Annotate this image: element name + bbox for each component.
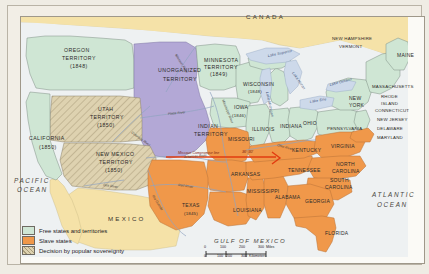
label-alabama: ALABAMA xyxy=(275,194,301,200)
label-florida: FLORIDA xyxy=(325,230,349,236)
country-label-mexico: MEXICO xyxy=(108,215,146,222)
label-missouri: MISSOURI xyxy=(228,136,255,142)
label-texas-year: (1845) xyxy=(184,211,198,216)
label-rhode-island: RHODE xyxy=(381,94,398,99)
scale-ruler xyxy=(204,250,300,254)
label-delaware: DELAWARE xyxy=(377,126,403,131)
legend-label-popular-sovereignty: Decision by popular sovereignty xyxy=(39,247,124,255)
label-indiana: INDIANA xyxy=(280,123,302,129)
label-new-jersey: NEW JERSEY xyxy=(377,117,408,122)
gulf-of-mexico-label: GULF OF MEXICO xyxy=(214,238,286,244)
label-new-york-line2: YORK xyxy=(349,102,365,108)
missouri-compromise-line-label: Missouri Compromise line xyxy=(178,151,219,155)
legend-label-free-states: Free states and territories xyxy=(39,227,107,235)
missouri-compromise-latitude-label: 36° 30' xyxy=(242,150,253,154)
label-connecticut: CONNECTICUT xyxy=(375,108,409,113)
label-illinois: ILLINOIS xyxy=(252,126,275,132)
label-south-carolina-line2: CAROLINA xyxy=(325,184,353,190)
label-indian-territory-line2: TERRITORY xyxy=(194,131,228,137)
label-new-york: NEW xyxy=(349,95,361,101)
label-vermont: VERMONT xyxy=(339,44,362,49)
label-massachusetts: MASSACHUSETTS xyxy=(372,84,414,89)
legend-item-popular-sovereignty: Decision by popular sovereignty xyxy=(22,246,168,255)
label-california: CALIFORNIA xyxy=(29,135,65,141)
label-indian-territory: INDIAN xyxy=(198,123,218,129)
ocean-label-atlantic: ATLANTIC xyxy=(371,191,415,198)
legend-swatch-popular-sovereignty xyxy=(22,246,35,255)
label-utah-territory-year: (1850) xyxy=(97,122,115,128)
historical-map-figure: CANADA MEXICO PACIFIC OCEAN ATLANTIC OCE… xyxy=(0,0,429,274)
label-texas: TEXAS xyxy=(182,202,200,208)
label-unorganized-territory-line2: TERRITORY xyxy=(163,76,197,82)
legend-swatch-free-states xyxy=(22,226,35,235)
label-oregon-territory-line2: TERRITORY xyxy=(62,55,96,61)
label-iowa: IOWA xyxy=(234,104,249,110)
label-wisconsin-year: (1848) xyxy=(248,89,262,94)
label-pennsylvania: PENNSYLVANIA xyxy=(327,126,362,131)
label-north-carolina-line2: CAROLINA xyxy=(332,168,360,174)
label-minnesota-territory-year: (1849) xyxy=(210,71,228,77)
map-scale-bar: 0 100 200 300 Miles 0 100 200 300 Kilome… xyxy=(204,245,300,259)
label-new-mexico-territory-line2: TERRITORY xyxy=(99,159,133,165)
label-tennessee: TENNESSEE xyxy=(288,167,321,173)
ocean-label-pacific: PACIFIC xyxy=(14,177,50,184)
label-ohio: OHIO xyxy=(303,120,317,126)
legend-swatch-slave-states xyxy=(22,236,35,245)
label-rhode-island-line2: ISLAND xyxy=(381,101,398,106)
label-minnesota-territory-line2: TERRITORY xyxy=(204,64,238,70)
label-new-mexico-territory-year: (1850) xyxy=(105,167,123,173)
label-unorganized-territory: UNORGANIZED xyxy=(158,67,201,73)
label-utah-territory: UTAH xyxy=(98,106,114,112)
scale-ruler-svg xyxy=(204,250,300,258)
label-iowa-year: (1846) xyxy=(232,113,246,118)
label-oregon-territory-year: (1848) xyxy=(70,63,88,69)
label-new-hampshire: NEW HAMPSHIRE xyxy=(332,36,372,41)
ocean-label-atlantic-ocean: OCEAN xyxy=(377,201,408,208)
label-arkansas: ARKANSAS xyxy=(231,171,261,177)
label-north-carolina: NORTH xyxy=(336,161,355,167)
map-legend: Free states and territories Slave states… xyxy=(22,226,168,256)
label-minnesota-territory: MINNESOTA xyxy=(204,57,239,63)
label-south-carolina: SOUTH xyxy=(330,177,349,183)
label-utah-territory-line2: TERRITORY xyxy=(90,114,124,120)
ocean-label-pacific-ocean: OCEAN xyxy=(17,186,48,193)
label-maine: MAINE xyxy=(397,52,415,58)
label-california-year: (1850) xyxy=(39,144,57,150)
label-wisconsin: WISCONSIN xyxy=(243,81,274,87)
label-new-mexico-territory: NEW MEXICO xyxy=(96,151,135,157)
legend-label-slave-states: Slave states xyxy=(39,237,72,245)
legend-item-free-states: Free states and territories xyxy=(22,226,168,235)
label-kentucky: KENTUCKY xyxy=(292,147,322,153)
country-label-canada: CANADA xyxy=(246,13,285,20)
label-virginia: VIRGINIA xyxy=(331,143,355,149)
label-oregon-territory: OREGON xyxy=(64,47,90,53)
label-maryland: MARYLAND xyxy=(377,135,403,140)
legend-item-slave-states: Slave states xyxy=(22,236,168,245)
label-georgia: GEORGIA xyxy=(305,198,331,204)
label-louisiana: LOUISIANA xyxy=(233,207,262,213)
